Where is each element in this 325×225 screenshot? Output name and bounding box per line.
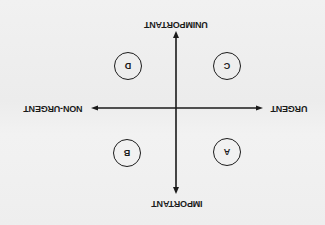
quadrant-d-letter: D (125, 61, 132, 71)
axis-label-urgent: URGENT (271, 104, 308, 113)
axis-label-important: IMPORTANT (151, 199, 202, 208)
quadrant-c-letter: C (224, 61, 231, 71)
scanned-page: IMPORTANT UNIMPORTANT URGENT NON-URGENT … (0, 0, 325, 225)
axis-label-non-urgent: NON-URGENT (24, 104, 83, 113)
quadrant-a-letter: A (224, 147, 231, 157)
quadrant-c-circle: C (213, 52, 241, 80)
arrow-down-icon (173, 31, 179, 38)
quadrant-a-circle: A (213, 138, 241, 166)
quadrant-b-circle: B (113, 139, 141, 167)
axis-label-unimportant: UNIMPORTANT (144, 20, 208, 29)
eisenhower-matrix-diagram: IMPORTANT UNIMPORTANT URGENT NON-URGENT … (0, 0, 325, 225)
arrow-up-icon (173, 187, 179, 194)
arrow-right-icon (91, 106, 98, 111)
quadrant-b-letter: B (124, 148, 131, 158)
arrow-left-icon (256, 106, 263, 111)
quadrant-d-circle: D (114, 52, 142, 80)
